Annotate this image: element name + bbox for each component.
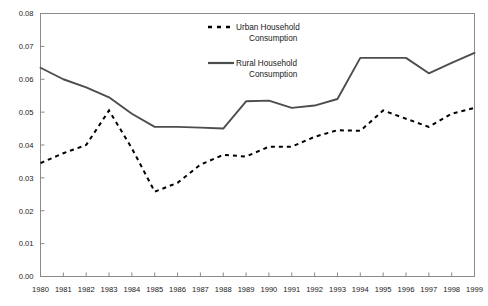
- legend-label-urban-line2: Consumption: [249, 34, 298, 43]
- y-tick-label: 0.00: [19, 272, 34, 281]
- chart-background: [0, 0, 488, 306]
- y-tick-label: 0.07: [19, 42, 34, 51]
- x-tick-label: 1996: [398, 285, 415, 294]
- chart-container: 0.000.010.020.030.040.050.060.070.08 198…: [0, 0, 488, 306]
- x-tick-label: 1997: [420, 285, 437, 294]
- x-tick-label: 1989: [238, 285, 255, 294]
- x-tick-label: 1987: [192, 285, 209, 294]
- y-tick-label: 0.05: [19, 108, 34, 117]
- x-tick-label: 1990: [260, 285, 277, 294]
- legend-label-rural-line2: Consumption: [249, 70, 298, 79]
- x-tick-label: 1980: [32, 285, 49, 294]
- y-tick-label: 0.03: [19, 174, 34, 183]
- x-tick-label: 1981: [55, 285, 72, 294]
- x-tick-label: 1994: [352, 285, 369, 294]
- x-tick-label: 1982: [78, 285, 95, 294]
- y-tick-label: 0.08: [19, 9, 34, 18]
- line-chart: 0.000.010.020.030.040.050.060.070.08 198…: [0, 0, 488, 306]
- legend-label-urban-line1: Urban Household: [236, 23, 300, 32]
- y-tick-label: 0.02: [19, 207, 34, 216]
- x-tick-label: 1986: [169, 285, 186, 294]
- x-tick-label: 1995: [375, 285, 392, 294]
- legend-label-rural-line1: Rural Household: [236, 59, 297, 68]
- x-tick-label: 1998: [443, 285, 460, 294]
- x-tick-label: 1993: [329, 285, 346, 294]
- x-tick-label: 1983: [101, 285, 118, 294]
- x-tick-label: 1999: [466, 285, 483, 294]
- y-tick-label: 0.04: [19, 141, 34, 150]
- y-tick-label: 0.01: [19, 239, 34, 248]
- x-tick-label: 1991: [283, 285, 300, 294]
- x-tick-label: 1984: [123, 285, 140, 294]
- y-axis-tick-labels: 0.000.010.020.030.040.050.060.070.08: [19, 9, 34, 281]
- y-tick-label: 0.06: [19, 75, 34, 84]
- x-tick-label: 1985: [146, 285, 163, 294]
- x-tick-label: 1988: [215, 285, 232, 294]
- x-tick-label: 1992: [306, 285, 323, 294]
